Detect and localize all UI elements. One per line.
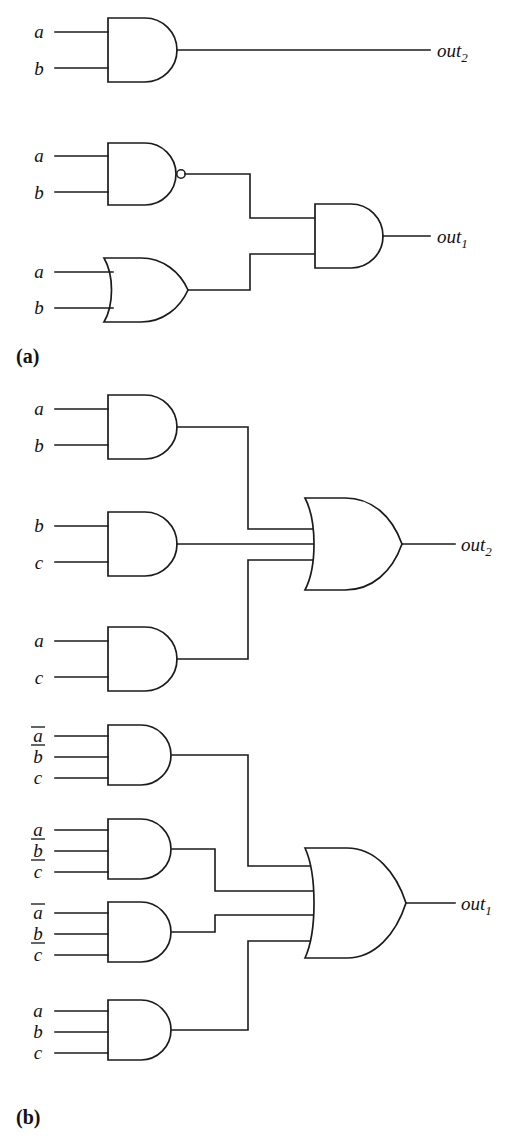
label-b-l-4-in-2: b bbox=[33, 1021, 43, 1042]
label-b-u-1-in-1: a bbox=[34, 398, 44, 419]
label-b-l-2-in-1: a bbox=[33, 819, 43, 840]
panel-a: a b out2 a b a b bbox=[16, 18, 468, 368]
gate-b-u-or[interactable] bbox=[305, 498, 455, 590]
output-label-b-out2: out2 bbox=[461, 534, 492, 559]
label-b-l-1-in-1: a bbox=[33, 725, 43, 746]
label-b-l-4-in-3: c bbox=[34, 1042, 43, 1063]
label-a-in-6: b bbox=[34, 297, 44, 318]
label-b-l-2-in-2: b bbox=[33, 840, 43, 861]
gate-b-u-and-3[interactable] bbox=[55, 627, 177, 691]
wire-a-or-to-and2 bbox=[188, 254, 315, 290]
label-b-u-3-in-1: a bbox=[34, 630, 44, 651]
wire-b-u-and1-to-or bbox=[177, 427, 330, 529]
panel-label-b: (b) bbox=[16, 1106, 40, 1129]
gate-a-or-1[interactable] bbox=[55, 258, 188, 322]
panel-b-upper: a b b c a c bbox=[34, 395, 492, 691]
gate-b-l-and-3[interactable] bbox=[55, 902, 171, 962]
label-b-l-1-in-3: c bbox=[34, 767, 43, 788]
nand-bubble-icon bbox=[177, 170, 185, 178]
label-a-in-5: a bbox=[34, 261, 44, 282]
circuit-canvas: a b out2 a b a b bbox=[0, 0, 513, 1145]
label-b-u-2-in-1: b bbox=[34, 515, 44, 536]
gate-a-and-1[interactable] bbox=[55, 18, 430, 82]
label-b-u-2-in-2: c bbox=[35, 552, 44, 573]
gate-b-l-and-2[interactable] bbox=[55, 819, 171, 879]
label-b-l-3-in-3: c bbox=[34, 944, 43, 965]
label-b-u-3-in-2: c bbox=[35, 667, 44, 688]
logic-circuit-figure: a b out2 a b a b bbox=[0, 0, 513, 1145]
wire-b-u-and3-to-or bbox=[177, 560, 330, 659]
gate-a-and-2[interactable] bbox=[315, 204, 430, 268]
label-a-in-3: a bbox=[34, 145, 44, 166]
output-label-a-out1: out1 bbox=[437, 226, 468, 251]
gate-a-nand-1[interactable] bbox=[55, 143, 185, 205]
gate-b-u-and-1[interactable] bbox=[55, 395, 177, 459]
wire-b-l-and3-to-or bbox=[172, 915, 330, 932]
output-label-a-out2: out2 bbox=[437, 40, 468, 65]
gate-b-l-or[interactable] bbox=[305, 848, 455, 958]
wire-a-nand-to-and2 bbox=[185, 174, 315, 218]
label-b-l-4-in-1: a bbox=[33, 1000, 43, 1021]
label-a-in-4: b bbox=[34, 182, 44, 203]
panel-b-lower: a b c a b c a bbox=[16, 725, 492, 1129]
gate-b-l-and-4[interactable] bbox=[55, 1000, 171, 1060]
gate-b-l-and-1[interactable] bbox=[55, 725, 171, 785]
output-label-b-out1: out1 bbox=[461, 893, 492, 918]
wire-b-l-and2-to-or bbox=[172, 849, 330, 891]
label-a-in-1: a bbox=[34, 21, 44, 42]
gate-b-u-and-2[interactable] bbox=[55, 512, 177, 576]
label-b-l-3-in-2: b bbox=[33, 923, 43, 944]
label-b-l-3-in-1: a bbox=[33, 902, 43, 923]
label-b-l-1-in-2: b bbox=[33, 746, 43, 767]
label-a-in-2: b bbox=[34, 58, 44, 79]
label-b-u-1-in-2: b bbox=[34, 435, 44, 456]
label-b-l-2-in-3: c bbox=[34, 861, 43, 882]
panel-label-a: (a) bbox=[16, 345, 39, 368]
